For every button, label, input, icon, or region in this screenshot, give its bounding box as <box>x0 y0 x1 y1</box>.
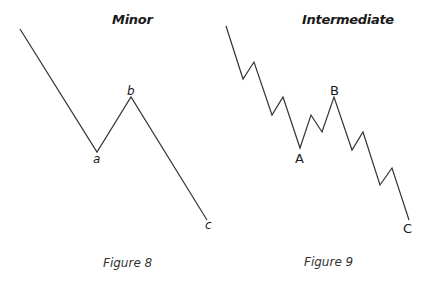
figure-9-wave-line <box>226 26 409 220</box>
wave-label-B: B <box>330 83 339 98</box>
wave-label-A: A <box>295 151 304 166</box>
figure-8: Minor a b c Figure 8 <box>20 12 212 270</box>
wave-label-C: C <box>403 221 412 236</box>
elliott-wave-diagrams: Minor a b c Figure 8 Intermediate A B C … <box>0 0 429 283</box>
figure-8-caption: Figure 8 <box>103 256 153 270</box>
figure-8-title: Minor <box>112 12 154 27</box>
wave-label-c: c <box>205 218 212 232</box>
figure-8-wave-line <box>20 29 207 220</box>
figure-9-title: Intermediate <box>302 12 394 27</box>
wave-label-a: a <box>93 152 100 166</box>
wave-label-b: b <box>127 84 135 98</box>
figure-9: Intermediate A B C Figure 9 <box>226 12 412 269</box>
figure-9-caption: Figure 9 <box>304 255 353 269</box>
